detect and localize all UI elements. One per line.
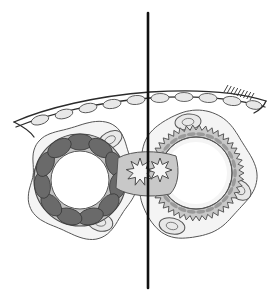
membrane-cell-5	[151, 93, 169, 103]
figure-canvas	[0, 0, 274, 295]
membrane-cell-6	[175, 92, 193, 101]
junction-star-right	[148, 158, 172, 182]
anatomical-diagram	[0, 0, 274, 295]
inner-dash-0	[233, 169, 237, 178]
